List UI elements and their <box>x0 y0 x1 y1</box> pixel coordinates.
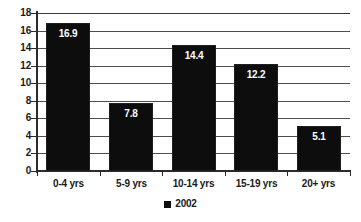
bar[interactable]: 16.9 <box>46 23 90 171</box>
bar[interactable]: 5.1 <box>297 126 341 171</box>
plot-area: 16.97.814.412.25.1 <box>37 13 350 171</box>
x-axis-category-label: 5-9 yrs <box>100 178 163 189</box>
y-axis-tick-label: 16 <box>5 26 31 36</box>
x-axis-category-label: 20+ yrs <box>287 178 350 189</box>
y-axis-tick-label: 10 <box>5 78 31 88</box>
x-tick <box>350 172 351 176</box>
y-axis-tick-label: 14 <box>5 43 31 53</box>
x-tick <box>162 172 163 176</box>
bar-value-label: 16.9 <box>47 29 89 39</box>
legend-label-2002: 2002 <box>175 199 196 209</box>
x-tick <box>225 172 226 176</box>
y-axis-tick-label: 4 <box>5 131 31 141</box>
x-axis-category-label: 10-14 yrs <box>162 178 225 189</box>
y-axis-tick-label: 2 <box>5 148 31 158</box>
legend: 2002 <box>0 199 361 209</box>
y-axis-tick-label: 0 <box>5 166 31 176</box>
bar-value-label: 14.4 <box>173 51 215 61</box>
x-tick-origin <box>37 172 38 176</box>
bar-value-label: 12.2 <box>235 70 277 80</box>
x-tick <box>100 172 101 176</box>
bar-chart: 181614121086420 16.97.814.412.25.1 0-4 y… <box>0 0 361 222</box>
y-axis-tick-label: 6 <box>5 113 31 123</box>
x-axis-category-label: 15-19 yrs <box>225 178 288 189</box>
y-axis-labels: 181614121086420 <box>0 0 31 222</box>
legend-swatch-2002 <box>164 201 171 208</box>
bar-value-label: 5.1 <box>298 132 340 142</box>
bar[interactable]: 14.4 <box>172 45 216 171</box>
y-axis-tick-label: 12 <box>5 61 31 71</box>
y-axis-tick-label: 8 <box>5 96 31 106</box>
bar-value-label: 7.8 <box>110 109 152 119</box>
x-axis-category-label: 0-4 yrs <box>37 178 100 189</box>
x-tick <box>287 172 288 176</box>
bar[interactable]: 7.8 <box>109 103 153 171</box>
y-axis-tick-label: 18 <box>5 8 31 18</box>
bar[interactable]: 12.2 <box>234 64 278 171</box>
